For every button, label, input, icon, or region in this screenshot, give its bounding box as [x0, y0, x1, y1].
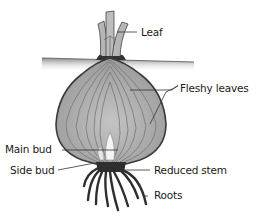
- leaf-stalks: [96, 11, 128, 60]
- onion-diagram: [0, 0, 256, 218]
- label-reduced-stem: Reduced stem: [154, 164, 227, 176]
- label-roots: Roots: [154, 189, 182, 201]
- label-side-bud: Side bud: [10, 164, 54, 176]
- label-leaf: Leaf: [141, 26, 162, 38]
- roots-shape: [84, 168, 146, 210]
- bulb: [56, 58, 166, 164]
- label-main-bud: Main bud: [5, 143, 52, 155]
- label-fleshy-leaves: Fleshy leaves: [180, 82, 248, 94]
